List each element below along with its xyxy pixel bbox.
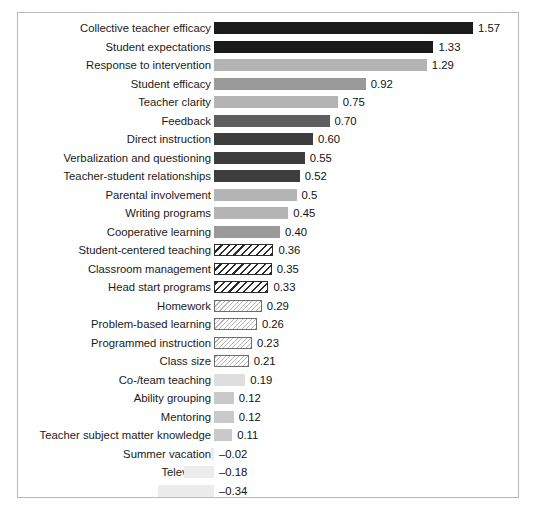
bar (214, 392, 234, 404)
bar (214, 429, 232, 441)
bar (214, 78, 366, 90)
bar-value-label: 0.29 (267, 297, 289, 316)
bar-category-label: Parental involvement (18, 186, 211, 205)
bar (214, 300, 262, 312)
bar-value-label: –0.02 (219, 445, 247, 464)
bar-value-label: 0.12 (239, 389, 261, 408)
bar-row: Mobility–0.34 (18, 482, 518, 501)
bar-category-label: Programmed instruction (18, 334, 211, 353)
bar-row: Ability grouping0.12 (18, 389, 518, 408)
bar-value-label: –0.18 (219, 463, 247, 482)
bar (214, 207, 288, 219)
bar-row: Collective teacher efficacy1.57 (18, 19, 518, 38)
bar-row: Classroom management0.35 (18, 260, 518, 279)
bar-value-label: 0.75 (343, 93, 365, 112)
bar (214, 170, 300, 182)
bar-row: Homework0.29 (18, 297, 518, 316)
bar-row: Student expectations1.33 (18, 38, 518, 57)
bar-value-label: 0.33 (273, 278, 295, 297)
bar-value-label: 1.33 (438, 38, 460, 57)
bar-category-label: Mentoring (18, 408, 211, 427)
bar-category-label: Student expectations (18, 38, 211, 57)
bar-row: Teacher subject matter knowledge0.11 (18, 426, 518, 445)
bar (214, 281, 268, 293)
bar (214, 355, 249, 367)
bar-row: Cooperative learning0.40 (18, 223, 518, 242)
bar-category-label: Head start programs (18, 278, 211, 297)
bar-value-label: 1.57 (478, 19, 500, 38)
bar (214, 115, 330, 127)
bar-row: Programmed instruction0.23 (18, 334, 518, 353)
bar-value-label: 0.11 (237, 426, 258, 445)
bar-chart-rows: Collective teacher efficacy1.57Student e… (18, 13, 518, 497)
bar-category-label: Direct instruction (18, 130, 211, 149)
bar-row: Writing programs0.45 (18, 204, 518, 223)
bar-category-label: Student efficacy (18, 75, 211, 94)
bar (211, 448, 214, 460)
bar-category-label: Writing programs (18, 204, 211, 223)
bar (214, 226, 280, 238)
bar-value-label: 0.21 (254, 352, 276, 371)
bar-row: Television–0.18 (18, 463, 518, 482)
bar-value-label: 0.36 (278, 241, 300, 260)
bar-category-label: Homework (18, 297, 211, 316)
bar (214, 96, 338, 108)
bar (214, 152, 305, 164)
bar-category-label: Feedback (18, 112, 211, 131)
bar-category-label: Classroom management (18, 260, 211, 279)
bar-value-label: 0.55 (310, 149, 332, 168)
bar-value-label: 0.35 (277, 260, 299, 279)
bar (214, 59, 427, 71)
bar-value-label: 0.19 (250, 371, 272, 390)
bar-value-label: –0.34 (219, 482, 247, 501)
bar-category-label: Television (18, 463, 211, 482)
bar (184, 466, 214, 478)
bar-value-label: 0.26 (262, 315, 284, 334)
bar-value-label: 0.60 (318, 130, 340, 149)
bar-value-label: 0.45 (293, 204, 315, 223)
bar-row: Co-/team teaching0.19 (18, 371, 518, 390)
bar-row: Head start programs0.33 (18, 278, 518, 297)
bar-category-label: Cooperative learning (18, 223, 211, 242)
bar-row: Summer vacation–0.02 (18, 445, 518, 464)
bar (214, 411, 234, 423)
bar (214, 22, 473, 34)
bar-category-label: Teacher subject matter knowledge (18, 426, 211, 445)
bar-row: Verbalization and questioning0.55 (18, 149, 518, 168)
bar (214, 318, 257, 330)
bar-row: Student-centered teaching0.36 (18, 241, 518, 260)
figure-canvas: Collective teacher efficacy1.57Student e… (0, 0, 536, 519)
bar (214, 337, 252, 349)
bar-category-label: Co-/team teaching (18, 371, 211, 390)
bar (214, 189, 297, 201)
bar (214, 263, 272, 275)
bar-row: Student efficacy0.92 (18, 75, 518, 94)
bar-value-label: 1.29 (432, 56, 454, 75)
clipped-caption-strip (0, 0, 536, 10)
bar-category-label: Teacher-student relationships (18, 167, 211, 186)
bar-row: Teacher-student relationships0.52 (18, 167, 518, 186)
bar (158, 485, 214, 497)
bar-category-label: Class size (18, 352, 211, 371)
bar-value-label: 0.12 (239, 408, 261, 427)
bar-row: Response to intervention1.29 (18, 56, 518, 75)
bar-category-label: Verbalization and questioning (18, 149, 211, 168)
bar-category-label: Student-centered teaching (18, 241, 211, 260)
bar-row: Teacher clarity0.75 (18, 93, 518, 112)
bar-category-label: Response to intervention (18, 56, 211, 75)
bar-category-label: Collective teacher efficacy (18, 19, 211, 38)
bar-row: Parental involvement0.5 (18, 186, 518, 205)
bar (214, 41, 433, 53)
bar-value-label: 0.70 (335, 112, 357, 131)
bar-category-label: Teacher clarity (18, 93, 211, 112)
bar-value-label: 0.40 (285, 223, 307, 242)
bar (214, 374, 245, 386)
bar-value-label: 0.52 (305, 167, 327, 186)
bar-value-label: 0.92 (371, 75, 393, 94)
bar-value-label: 0.5 (302, 186, 318, 205)
bar-row: Problem-based learning0.26 (18, 315, 518, 334)
bar-value-label: 0.23 (257, 334, 279, 353)
bar-category-label: Problem-based learning (18, 315, 211, 334)
bar-category-label: Ability grouping (18, 389, 211, 408)
chart-frame: Collective teacher efficacy1.57Student e… (17, 12, 519, 498)
